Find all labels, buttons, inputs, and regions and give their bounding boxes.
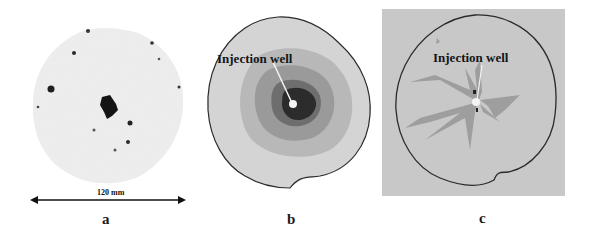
saturation-map-concentric	[190, 0, 380, 200]
panel-a: 120 mm a	[0, 0, 200, 234]
panel-b-caption: b	[287, 211, 295, 228]
scale-bar-label: 120 mm	[97, 188, 124, 197]
panel-c: Injection well c	[380, 0, 592, 234]
core-photo	[0, 0, 200, 200]
injection-well-label-c: Injection well	[433, 50, 508, 66]
saturation-map-fingering	[380, 0, 592, 200]
injection-well-label-b: Injection well	[217, 51, 292, 67]
panel-b: Injection well b	[190, 0, 380, 234]
panel-c-caption: c	[479, 210, 486, 227]
panel-a-caption: a	[102, 211, 110, 228]
